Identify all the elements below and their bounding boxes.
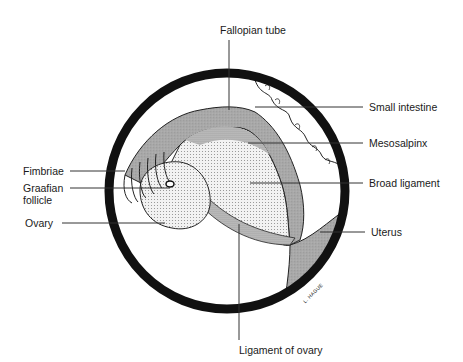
label-graafian-follicle: Graafian follicle xyxy=(23,182,63,206)
diagram-canvas: Fallopian tube Small intestine Mesosalpi… xyxy=(0,0,463,362)
label-graafian-line2: follicle xyxy=(23,194,52,206)
label-mesosalpinx: Mesosalpinx xyxy=(369,137,427,149)
label-uterus: Uterus xyxy=(371,226,402,238)
label-ovary: Ovary xyxy=(25,217,53,229)
label-broad-ligament: Broad ligament xyxy=(369,177,440,189)
label-fimbriae: Fimbriae xyxy=(23,165,64,177)
label-fallopian-tube: Fallopian tube xyxy=(220,24,286,36)
label-ligament-of-ovary: Ligament of ovary xyxy=(239,344,322,356)
label-small-intestine: Small intestine xyxy=(369,101,437,113)
label-graafian-line1: Graafian xyxy=(23,182,63,194)
ovary-shape xyxy=(140,162,210,229)
graafian-follicle-shape xyxy=(166,181,174,187)
